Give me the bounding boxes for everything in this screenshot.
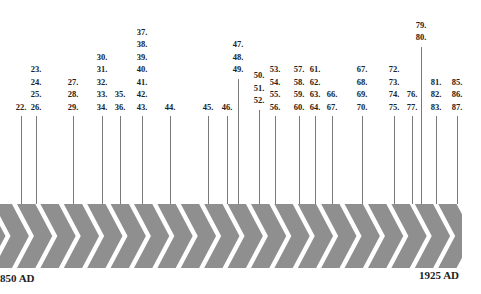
event-number: 30. — [90, 51, 114, 64]
event-number: 23. — [24, 63, 48, 76]
event-number: 36. — [108, 101, 132, 114]
event-number: 85. — [445, 76, 469, 89]
event-number: 53. — [263, 63, 287, 76]
event-number: 26. — [24, 101, 48, 114]
event-number: 31. — [90, 63, 114, 76]
event-number: 47. — [226, 38, 250, 51]
event-number: 54. — [263, 76, 287, 89]
event-number: 46. — [215, 101, 239, 114]
event-number: 70. — [350, 101, 374, 114]
event-number: 69. — [350, 88, 374, 101]
event-connector-line — [36, 116, 37, 204]
event-number: 35. — [108, 88, 132, 101]
event-number: 73. — [382, 76, 406, 89]
event-number-stack: 67.68.69.70. — [350, 63, 374, 113]
event-number: 41. — [130, 76, 154, 89]
event-connector-line — [332, 116, 333, 204]
event-number: 28. — [61, 88, 85, 101]
event-connector-line — [73, 116, 74, 204]
event-number: 29. — [61, 101, 85, 114]
event-connector-line — [362, 116, 363, 204]
event-connector-line — [21, 116, 22, 204]
event-number: 25. — [24, 88, 48, 101]
event-connector-line — [315, 116, 316, 204]
event-number: 79. — [409, 19, 433, 32]
event-number: 40. — [130, 63, 154, 76]
event-number: 48. — [226, 51, 250, 64]
event-number: 80. — [409, 31, 433, 44]
event-connector-line — [457, 116, 458, 204]
event-number: 42. — [130, 88, 154, 101]
event-number-stack: 46. — [215, 101, 239, 114]
event-connector-line — [421, 47, 422, 205]
event-number-stack: 44. — [158, 101, 182, 114]
event-number-stack: 85.86.87. — [445, 76, 469, 114]
event-number: 43. — [130, 101, 154, 114]
event-number: 61. — [303, 63, 327, 76]
event-connector-line — [120, 116, 121, 204]
event-connector-line — [412, 116, 413, 204]
event-number: 86. — [445, 88, 469, 101]
event-connector-line — [170, 116, 171, 204]
event-connector-line — [208, 116, 209, 204]
event-number: 62. — [303, 76, 327, 89]
event-number-stack: 27.28.29. — [61, 76, 85, 114]
event-number: 67. — [350, 63, 374, 76]
event-number-stack: 35.36. — [108, 88, 132, 113]
event-number: 67. — [320, 101, 344, 114]
event-connector-line — [102, 116, 103, 204]
end-date-label: 1925 AD — [419, 269, 459, 281]
event-connector-line — [142, 116, 143, 204]
event-connector-line — [394, 116, 395, 204]
event-connector-line — [227, 116, 228, 204]
event-connector-line — [299, 116, 300, 204]
timeline-diagram: 22.23.24.25.26.27.28.29.30.31.32.33.34.3… — [0, 0, 481, 294]
event-number: 37. — [130, 26, 154, 39]
event-number: 24. — [24, 76, 48, 89]
event-number: 56. — [263, 101, 287, 114]
event-number: 87. — [445, 101, 469, 114]
event-number: 27. — [61, 76, 85, 89]
event-number-stack: 79.80. — [409, 19, 433, 44]
event-number-stack: 53.54.55.56. — [263, 63, 287, 113]
event-number: 72. — [382, 63, 406, 76]
event-number: 32. — [90, 76, 114, 89]
event-connector-line — [436, 116, 437, 204]
event-number: 44. — [158, 101, 182, 114]
chevron-arrows-icon — [0, 204, 462, 268]
event-number: 38. — [130, 38, 154, 51]
start-date-label: 850 AD — [0, 272, 35, 284]
event-number-stack: 37.38.39.40.41.42.43. — [130, 26, 154, 114]
event-number: 39. — [130, 51, 154, 64]
timeline-arrow-band — [0, 204, 462, 268]
event-number: 55. — [263, 88, 287, 101]
event-number: 66. — [320, 88, 344, 101]
event-connector-line — [238, 79, 239, 205]
event-number-stack: 66.67. — [320, 88, 344, 113]
event-number: 68. — [350, 76, 374, 89]
event-connector-line — [259, 110, 260, 205]
event-connector-line — [275, 116, 276, 204]
event-number-stack: 23.24.25.26. — [24, 63, 48, 113]
